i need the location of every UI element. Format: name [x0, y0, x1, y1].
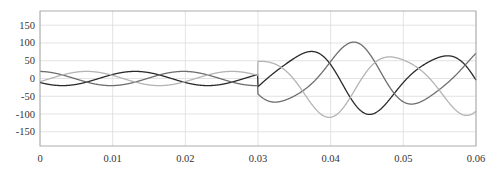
- y-tick-label: 0: [30, 73, 35, 84]
- y-tick-label: 100: [19, 37, 35, 48]
- line-chart: 00.010.020.030.040.050.06 150100500-50-1…: [0, 0, 502, 169]
- y-tick-label: 150: [19, 20, 35, 31]
- x-tick-label: 0.05: [394, 153, 412, 164]
- x-tick-label: 0: [37, 153, 42, 164]
- y-tick-label: -150: [16, 126, 35, 137]
- x-tick-label: 0.04: [321, 153, 340, 164]
- y-axis-ticks: 150100500-50-100-150: [16, 20, 35, 138]
- y-tick-label: -50: [21, 91, 35, 102]
- x-tick-label: 0.02: [176, 153, 194, 164]
- x-tick-label: 0.01: [103, 153, 121, 164]
- y-tick-label: -100: [16, 109, 35, 120]
- x-axis-ticks: 00.010.020.030.040.050.06: [37, 153, 485, 164]
- x-tick-label: 0.06: [467, 153, 485, 164]
- x-tick-label: 0.03: [249, 153, 267, 164]
- y-tick-label: 50: [25, 55, 36, 66]
